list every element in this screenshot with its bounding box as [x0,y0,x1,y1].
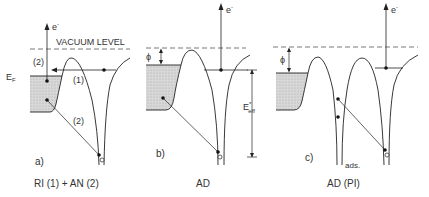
panel-c-caption: AD (PI) [327,178,360,189]
vacuum-level-label: VACUUM LEVEL [56,37,125,47]
electron-label: e- [226,4,233,15]
adsorbate-barrier [308,57,337,165]
path-label-2-top: (2) [33,57,44,67]
auger-path [163,98,218,152]
panel-a-tag: a) [35,156,44,167]
auger-path-2 [47,100,99,155]
panel-a-caption: RI (1) + AN (2) [34,178,99,189]
adsorbate-well-right [342,58,384,165]
auger-path [338,99,385,150]
core-hole [385,153,389,157]
panel-b-tag: b) [156,148,165,159]
path-label-1: (1) [73,75,84,85]
fermi-label: EF [6,72,16,83]
potential-barrier [181,50,218,165]
phi-label: ϕ [146,52,151,62]
panel-c-tag: c) [305,152,313,163]
metal-electron-1 [45,79,49,83]
potential-well-right [104,58,130,165]
core-hole [218,155,222,159]
panel-a: VACUUM LEVEL EF e- (2) (1) (2) a) RI (1)… [6,21,130,189]
path-label-2-bottom: (2) [73,116,84,126]
ads-label: ads. [345,161,360,170]
atom-well-right [389,55,418,165]
core-hole [100,158,104,162]
atom-electron [102,68,106,72]
phi-label: ϕ [280,55,285,65]
metal-band [276,73,308,110]
panel-c: ϕ e- ads. c) AD (PI) [273,3,418,189]
energy-diagram: VACUUM LEVEL EF e- (2) (1) (2) a) RI (1)… [0,0,429,197]
panel-b: ϕ e- E*eff b) AD [146,3,257,189]
panel-b-caption: AD [196,178,210,189]
electron-label: e- [52,21,59,32]
eeff-label: E*eff [243,101,255,114]
electron-label: e- [391,4,398,15]
